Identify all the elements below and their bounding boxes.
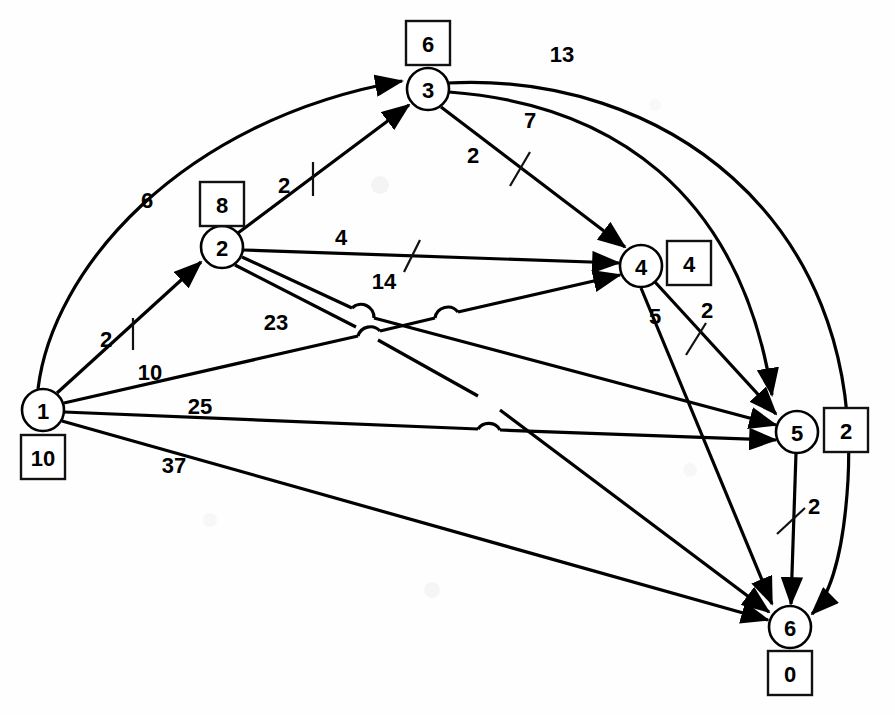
- node-4-label: 4: [635, 255, 648, 280]
- potential-box-5-label: 2: [840, 419, 852, 444]
- node-5-label: 5: [791, 421, 803, 446]
- node-4[interactable]: 4: [620, 245, 662, 287]
- edge-weight-1-5: 25: [188, 394, 212, 419]
- edge-3-4-tick: [510, 152, 530, 186]
- edge-weight-2-6: 23: [264, 310, 288, 335]
- node-6-label: 6: [784, 616, 796, 641]
- node-2[interactable]: 2: [201, 226, 243, 268]
- edge-4-6: [641, 288, 772, 604]
- edge-1-6: [62, 421, 768, 620]
- edge-4-5-path: [655, 282, 776, 414]
- potential-box-5: 2: [824, 408, 868, 452]
- edge-weight-1-6: 37: [162, 453, 186, 478]
- node-3[interactable]: 3: [407, 68, 449, 110]
- edge-5-6-tick: [777, 508, 805, 534]
- node-1-label: 1: [37, 399, 49, 424]
- hop-arc-3: [435, 307, 458, 318]
- diagram-canvas: 6 2 10 25 37 2 4 14 23 2 7 13 2 5 2 1 2 …: [0, 0, 895, 715]
- edge-weight-1-3: 6: [141, 188, 153, 213]
- potential-box-2: 8: [200, 182, 244, 226]
- edge-weight-4-6: 5: [649, 304, 661, 329]
- edge-5-6-path: [791, 453, 796, 604]
- potential-box-2-label: 8: [216, 193, 228, 218]
- potential-box-6-label: 0: [784, 662, 796, 687]
- node-1[interactable]: 1: [22, 389, 64, 431]
- edge-2-4-path: [243, 250, 619, 263]
- edge-5-6: [777, 453, 805, 604]
- potential-box-4: 4: [667, 241, 711, 285]
- potential-box-6: 0: [768, 651, 812, 695]
- node-6[interactable]: 6: [769, 606, 811, 648]
- potential-box-1-label: 10: [31, 446, 55, 471]
- edge-weight-2-5: 14: [372, 269, 397, 294]
- potential-box-4-label: 4: [683, 252, 696, 277]
- node-2-label: 2: [216, 236, 228, 261]
- potential-box-3: 6: [406, 21, 450, 65]
- potential-box-3-label: 6: [422, 32, 434, 57]
- edge-weight-3-6: 13: [550, 42, 574, 67]
- edge-weight-1-2: 2: [100, 327, 112, 352]
- potential-box-1: 10: [21, 435, 65, 479]
- edge-weight-2-3: 2: [278, 173, 290, 198]
- graph-svg: 6 2 10 25 37 2 4 14 23 2 7 13 2 5 2 1 2 …: [0, 0, 895, 715]
- edge-2-4: [243, 240, 619, 272]
- edge-weight-2-4: 4: [335, 225, 348, 250]
- edge-1-5-path: [64, 412, 776, 440]
- edge-weight-5-6: 2: [808, 494, 820, 519]
- edge-weight-4-5: 2: [701, 298, 713, 323]
- hop-arc-4: [478, 423, 500, 430]
- edge-weight-3-5: 7: [524, 108, 536, 133]
- edge-weight-3-4: 2: [467, 143, 479, 168]
- edge-1-6-path: [62, 421, 768, 620]
- hop-arc-1: [352, 304, 374, 318]
- edge-4-6-path: [641, 288, 772, 604]
- edge-4-5: [655, 282, 776, 414]
- node-3-label: 3: [422, 78, 434, 103]
- edge-1-5: [64, 412, 776, 440]
- hop-arc-2: [358, 327, 380, 336]
- node-5[interactable]: 5: [776, 411, 818, 453]
- edge-weight-1-4: 10: [138, 360, 162, 385]
